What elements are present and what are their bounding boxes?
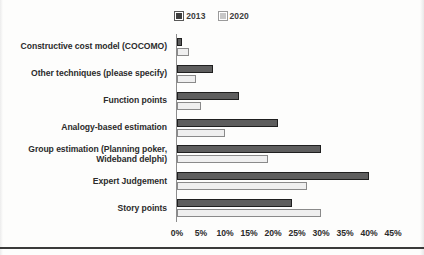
legend-swatch-2013-icon bbox=[175, 12, 183, 20]
bar-2013[interactable] bbox=[177, 119, 278, 127]
category-label: Other techniques (please specify) bbox=[0, 61, 172, 88]
category-label: Story points bbox=[0, 195, 172, 222]
bar-2020[interactable] bbox=[177, 155, 268, 163]
bar-2020[interactable] bbox=[177, 129, 225, 137]
category-label: Analogy-based estimation bbox=[0, 115, 172, 142]
x-tick: 35% bbox=[336, 228, 353, 238]
x-tick: 15% bbox=[240, 228, 257, 238]
bar-row bbox=[177, 141, 393, 168]
page-rule bbox=[0, 247, 424, 249]
bar-rows bbox=[177, 34, 393, 222]
x-tick: 20% bbox=[264, 228, 281, 238]
legend-label-2013: 2013 bbox=[186, 12, 205, 21]
legend-entry-2020[interactable]: 2020 bbox=[219, 12, 249, 21]
category-label: Constructive cost model (COCOMO) bbox=[0, 34, 172, 61]
chart-legend: 2013 2020 bbox=[0, 9, 424, 23]
bar-row bbox=[177, 168, 393, 195]
bar-row bbox=[177, 61, 393, 88]
x-tick: 45% bbox=[384, 228, 401, 238]
x-tick: 0% bbox=[171, 228, 183, 238]
x-tick: 40% bbox=[360, 228, 377, 238]
category-label: Expert Judgement bbox=[0, 168, 172, 195]
bar-2013[interactable] bbox=[177, 38, 182, 46]
bar-2013[interactable] bbox=[177, 92, 239, 100]
x-tick: 5% bbox=[195, 228, 207, 238]
category-label: Group estimation (Planning poker, Wideba… bbox=[0, 141, 172, 168]
bar-2020[interactable] bbox=[177, 48, 189, 56]
bar-2020[interactable] bbox=[177, 102, 201, 110]
category-axis-labels: Constructive cost model (COCOMO) Other t… bbox=[0, 34, 172, 222]
bar-2020[interactable] bbox=[177, 75, 196, 83]
bar-2013[interactable] bbox=[177, 199, 292, 207]
x-tick: 25% bbox=[288, 228, 305, 238]
bar-chart: 2013 2020 Constructive cost model (COCOM… bbox=[0, 0, 424, 255]
bar-2020[interactable] bbox=[177, 209, 321, 217]
bar-2020[interactable] bbox=[177, 182, 307, 190]
bar-2013[interactable] bbox=[177, 172, 369, 180]
bar-row bbox=[177, 88, 393, 115]
legend-entry-2013[interactable]: 2013 bbox=[175, 12, 205, 21]
legend-swatch-2020-icon bbox=[219, 12, 227, 20]
x-tick: 30% bbox=[312, 228, 329, 238]
x-axis-tick-labels: 0% 5% 10% 15% 20% 25% 30% 35% 40% 45% bbox=[177, 228, 393, 240]
bar-2013[interactable] bbox=[177, 65, 213, 73]
bar-row bbox=[177, 195, 393, 222]
bar-row bbox=[177, 34, 393, 61]
bar-row bbox=[177, 115, 393, 142]
category-label: Function points bbox=[0, 88, 172, 115]
x-tick: 10% bbox=[216, 228, 233, 238]
bar-2013[interactable] bbox=[177, 145, 321, 153]
legend-label-2020: 2020 bbox=[230, 12, 249, 21]
page-edge-right bbox=[420, 0, 424, 255]
